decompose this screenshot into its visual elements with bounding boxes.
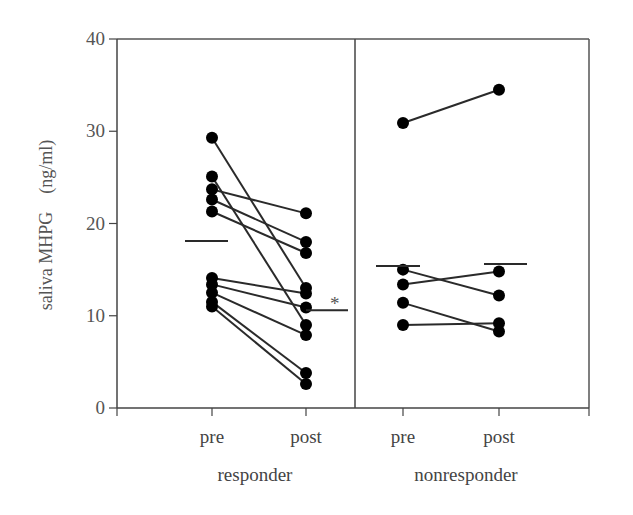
pre-point	[397, 117, 409, 129]
x-category-label: pre	[391, 426, 415, 447]
pre-point	[206, 132, 218, 144]
paired-line	[403, 323, 499, 325]
post-point	[300, 329, 312, 341]
y-tick-label: 30	[86, 120, 105, 141]
post-point	[300, 367, 312, 379]
post-point	[493, 317, 505, 329]
post-point	[493, 265, 505, 277]
paired-line	[212, 284, 306, 307]
significance-asterisk: *	[330, 293, 340, 314]
post-point	[300, 247, 312, 259]
paired-line	[212, 176, 306, 325]
paired-line	[212, 293, 306, 335]
pre-point	[397, 297, 409, 309]
paired-line	[212, 189, 306, 213]
pre-point	[206, 206, 218, 218]
post-point	[300, 301, 312, 313]
y-tick-label: 10	[86, 305, 105, 326]
plot-frame	[117, 39, 589, 408]
post-point	[493, 289, 505, 301]
x-category-label: pre	[200, 426, 224, 447]
x-category-label: post	[483, 426, 515, 447]
group-label-nonresponder: nonresponder	[414, 464, 518, 485]
pre-point	[397, 278, 409, 290]
y-axis-title: saliva MHPG (ng/ml)	[36, 140, 57, 311]
group-label-responder: responder	[218, 464, 294, 485]
paired-line	[212, 200, 306, 242]
post-point	[300, 378, 312, 390]
x-category-label: post	[290, 426, 322, 447]
post-point	[493, 84, 505, 96]
paired-line	[212, 307, 306, 384]
paired-line	[403, 90, 499, 123]
y-tick-label: 40	[86, 28, 105, 49]
paired-line-chart: 010203040 prepostprepost * saliva MHPG (…	[0, 0, 633, 515]
pre-point	[206, 170, 218, 182]
x-axis: prepostprepost	[117, 408, 589, 447]
y-tick-label: 0	[96, 397, 106, 418]
pre-point	[206, 194, 218, 206]
post-point	[300, 288, 312, 300]
y-tick-label: 20	[86, 213, 105, 234]
group-means	[185, 241, 527, 310]
pre-point	[397, 319, 409, 331]
paired-line	[212, 138, 306, 288]
post-point	[300, 236, 312, 248]
paired-line	[212, 278, 306, 294]
post-point	[300, 207, 312, 219]
paired-line	[212, 302, 306, 373]
y-axis: 010203040	[86, 28, 117, 418]
paired-line	[403, 303, 499, 332]
paired-line	[212, 212, 306, 254]
pre-point	[206, 301, 218, 313]
